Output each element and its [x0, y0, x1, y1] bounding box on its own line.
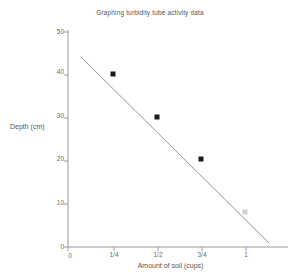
turbidity-scatter-chart: Graphing turbidity tube activity data De… [0, 0, 300, 277]
plot-area [0, 0, 300, 277]
data-point [243, 210, 248, 215]
data-point-markers [111, 72, 248, 215]
x-axis-ticks [68, 247, 246, 251]
trend-line [81, 57, 269, 243]
data-point [111, 72, 116, 77]
data-point [155, 115, 160, 120]
y-axis-ticks [64, 32, 68, 247]
data-point [199, 157, 204, 162]
